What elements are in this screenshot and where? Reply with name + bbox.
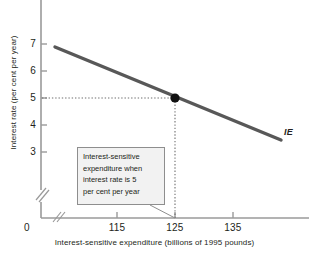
y-tick-label-6: 6 (22, 65, 36, 76)
y-tick-label-4: 4 (22, 119, 36, 130)
y-tick-label-7: 7 (22, 38, 36, 49)
x-axis-break-icon (53, 212, 65, 222)
annotation-callout: Interest-sensitive expenditure when inte… (77, 147, 165, 205)
x-tick-label-125: 125 (160, 222, 190, 233)
chart-plot-area (0, 0, 309, 256)
highlight-point-marker (170, 93, 179, 102)
ie-curve-label: IE (284, 127, 293, 137)
y-axis-break-icon (36, 188, 49, 202)
annotation-line-4: per cent per year (83, 186, 160, 198)
annotation-leader-line (150, 205, 175, 218)
x-tick-label-135: 135 (218, 222, 248, 233)
y-tick-label-5: 5 (22, 92, 36, 103)
y-axis-title: Interest rate (per cent per year) (9, 18, 18, 168)
origin-label: 0 (24, 222, 30, 233)
y-tick-label-3: 3 (22, 146, 36, 157)
annotation-line-3: interest rate is 5 (83, 174, 160, 186)
interest-sensitive-expenditure-chart: 7 6 5 4 3 115 125 135 0 Interest rate (p… (0, 0, 309, 256)
ie-curve (55, 47, 281, 140)
x-tick-label-115: 115 (102, 222, 132, 233)
annotation-line-1: Interest-sensitive (83, 151, 160, 163)
annotation-line-2: expenditure when (83, 163, 160, 175)
x-axis-title: Interest-sensitive expenditure (billions… (0, 238, 309, 247)
